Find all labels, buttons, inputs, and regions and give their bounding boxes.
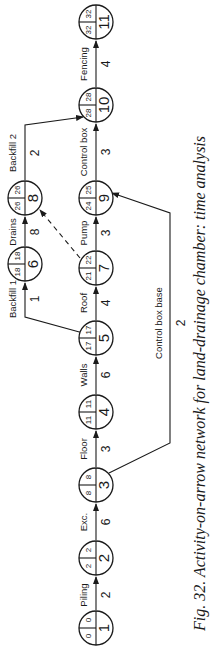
node-6: 18 18 6 — [8, 247, 42, 281]
svg-text:7: 7 — [95, 264, 112, 272]
svg-text:3: 3 — [95, 481, 112, 489]
svg-text:Pump: Pump — [78, 221, 89, 246]
svg-text:Backfill 2: Backfill 2 — [7, 134, 18, 172]
svg-text:26: 26 — [13, 185, 22, 194]
svg-text:2: 2 — [95, 554, 112, 562]
node-1: 0 0 1 — [79, 611, 113, 645]
edge-backfill-1 — [25, 283, 83, 333]
svg-text:4: 4 — [99, 60, 113, 67]
svg-text:11: 11 — [84, 415, 93, 424]
node-11: 32 32 11 — [79, 5, 113, 39]
svg-text:Drains: Drains — [7, 218, 18, 246]
svg-text:Roof: Roof — [78, 293, 89, 313]
svg-text:Fencing: Fencing — [78, 47, 89, 81]
figure-caption: Fig. 32. Activity-on-arrow network for l… — [191, 136, 209, 632]
network-diagram: Piling 2 Exc. 6 Floor 3 Walls 6 Roof 4 P… — [0, 0, 213, 653]
svg-text:3: 3 — [99, 229, 113, 236]
svg-text:2: 2 — [84, 563, 93, 568]
svg-text:18: 18 — [13, 251, 22, 260]
svg-text:11: 11 — [84, 399, 93, 408]
node-10: 28 28 10 — [79, 88, 113, 122]
svg-text:21: 21 — [84, 271, 93, 280]
svg-text:28: 28 — [84, 92, 93, 101]
svg-text:0: 0 — [84, 633, 93, 638]
svg-text:Control box: Control box — [78, 127, 89, 176]
edge-dummy — [40, 210, 80, 258]
svg-text:28: 28 — [84, 108, 93, 117]
svg-text:4: 4 — [99, 299, 113, 306]
svg-text:9: 9 — [95, 194, 112, 202]
svg-text:25: 25 — [84, 185, 93, 194]
svg-text:2: 2 — [99, 591, 113, 598]
svg-text:6: 6 — [99, 518, 113, 525]
svg-text:17: 17 — [84, 341, 93, 350]
svg-text:1: 1 — [28, 295, 42, 302]
svg-text:17: 17 — [84, 325, 93, 334]
svg-text:10: 10 — [95, 97, 112, 114]
svg-text:Backfill 1: Backfill 1 — [7, 280, 18, 318]
svg-text:22: 22 — [84, 255, 93, 264]
svg-text:8: 8 — [24, 194, 41, 202]
edge-backfill-2 — [25, 117, 83, 180]
svg-text:1: 1 — [95, 624, 112, 632]
node-4: 11 11 4 — [79, 395, 113, 429]
svg-text:2: 2 — [28, 149, 42, 156]
svg-text:Control box base: Control box base — [153, 287, 164, 359]
svg-text:11: 11 — [95, 14, 112, 30]
node-2: 2 2 2 — [79, 541, 113, 575]
svg-text:6: 6 — [99, 371, 113, 378]
svg-text:Piling: Piling — [78, 583, 89, 606]
svg-text:32: 32 — [84, 9, 93, 18]
node-5: 17 17 5 — [79, 321, 113, 355]
svg-text:26: 26 — [13, 201, 22, 210]
svg-text:3: 3 — [99, 148, 113, 155]
svg-text:Exc.: Exc. — [78, 513, 89, 531]
svg-text:4: 4 — [95, 408, 112, 416]
svg-text:8: 8 — [84, 490, 93, 495]
node-7: 21 22 7 — [79, 251, 113, 285]
svg-text:Floor: Floor — [78, 438, 89, 460]
svg-text:8: 8 — [28, 228, 42, 235]
svg-text:32: 32 — [84, 25, 93, 34]
svg-text:0: 0 — [84, 617, 93, 622]
svg-text:2: 2 — [84, 547, 93, 552]
svg-text:18: 18 — [13, 267, 22, 276]
svg-text:2: 2 — [174, 319, 188, 326]
node-3: 8 8 3 — [79, 468, 113, 502]
svg-text:3: 3 — [99, 445, 113, 452]
node-8: 26 26 8 — [8, 181, 42, 215]
svg-text:8: 8 — [84, 474, 93, 479]
node-9: 24 25 9 — [79, 181, 113, 215]
svg-text:Walls: Walls — [78, 363, 89, 386]
svg-text:24: 24 — [84, 201, 93, 210]
svg-text:6: 6 — [24, 260, 41, 268]
svg-text:5: 5 — [95, 334, 112, 342]
